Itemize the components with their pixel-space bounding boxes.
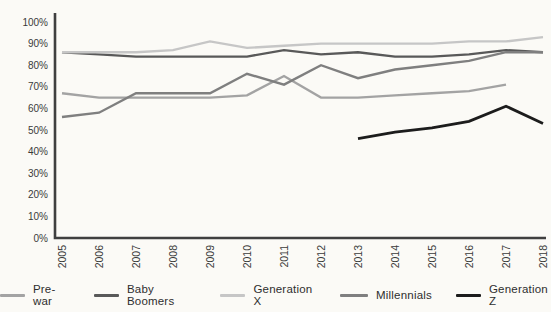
- x-axis-tick-label: 2015: [426, 245, 438, 269]
- y-axis-tick-label: 20%: [28, 189, 48, 200]
- x-axis-tick-label: 2007: [130, 245, 142, 269]
- legend-swatch-generation-z: [456, 294, 481, 297]
- x-axis-tick-label: 2010: [241, 245, 253, 269]
- legend-swatch-generation-x: [220, 294, 245, 297]
- legend-item-generation-z: Generation Z: [456, 283, 551, 307]
- legend-item-millennials: Millennials: [340, 289, 432, 301]
- x-axis-tick-label: 2008: [167, 245, 179, 269]
- legend-item-pre-war: Pre-war: [0, 283, 70, 307]
- y-axis-tick-label: 100%: [22, 17, 48, 28]
- x-axis-tick-label: 2014: [389, 245, 401, 269]
- x-axis-tick-label: 2006: [93, 245, 105, 269]
- series-line-generation-x: [62, 37, 543, 52]
- legend-swatch-pre-war: [0, 294, 25, 297]
- x-axis-tick-label: 2017: [500, 245, 512, 269]
- y-axis-tick-label: 50%: [28, 125, 48, 136]
- legend-label-generation-x: Generation X: [253, 283, 316, 307]
- y-axis-tick-label: 80%: [28, 60, 48, 71]
- y-axis-tick-label: 30%: [28, 168, 48, 179]
- x-axis-tick-label: 2013: [352, 245, 364, 269]
- legend-label-millennials: Millennials: [376, 289, 432, 301]
- legend-label-generation-z: Generation Z: [489, 283, 551, 307]
- y-axis-tick-label: 10%: [28, 211, 48, 222]
- legend-swatch-millennials: [340, 294, 368, 297]
- y-axis-tick-label: 40%: [28, 146, 48, 157]
- axis-lines: [55, 13, 546, 238]
- y-axis-tick-label: 70%: [28, 81, 48, 92]
- legend-item-generation-x: Generation X: [220, 283, 316, 307]
- x-axis-tick-label: 2012: [315, 245, 327, 269]
- series-line-pre-war: [62, 76, 506, 98]
- y-axis-tick-label: 60%: [28, 103, 48, 114]
- legend-swatch-baby-boomers: [94, 294, 119, 297]
- legend-label-baby-boomers: Baby Boomers: [127, 283, 197, 307]
- series-line-millennials: [62, 52, 543, 117]
- x-axis-tick-label: 2011: [278, 245, 290, 268]
- x-axis-tick-label: 2016: [463, 245, 475, 269]
- series-line-generation-z: [358, 106, 543, 138]
- x-axis-tick-label: 2018: [537, 245, 549, 269]
- y-axis-tick-label: 0%: [34, 233, 49, 244]
- line-chart: 0%10%20%30%40%50%60%70%80%90%100%2005200…: [0, 0, 551, 312]
- line-chart-svg: 0%10%20%30%40%50%60%70%80%90%100%2005200…: [0, 0, 551, 280]
- x-axis-tick-label: 2009: [204, 245, 216, 269]
- legend-label-pre-war: Pre-war: [33, 283, 70, 307]
- x-axis-tick-label: 2005: [56, 245, 68, 269]
- y-axis-tick-label: 90%: [28, 38, 48, 49]
- chart-legend: Pre-warBaby BoomersGeneration XMillennia…: [0, 283, 551, 307]
- legend-item-baby-boomers: Baby Boomers: [94, 283, 197, 307]
